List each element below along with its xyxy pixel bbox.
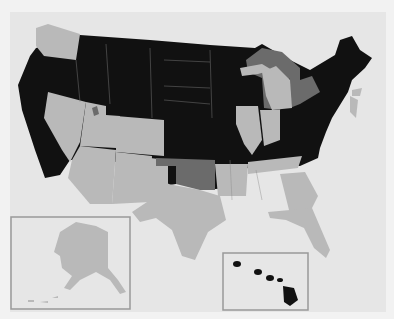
state-co-wy-light (116, 116, 164, 156)
state-nj (350, 96, 358, 118)
state-ct-light (352, 88, 362, 96)
state-ga (280, 172, 318, 214)
state-fl (268, 208, 330, 258)
state-nm (112, 152, 152, 204)
state-az (68, 146, 116, 204)
us-map (0, 0, 394, 319)
